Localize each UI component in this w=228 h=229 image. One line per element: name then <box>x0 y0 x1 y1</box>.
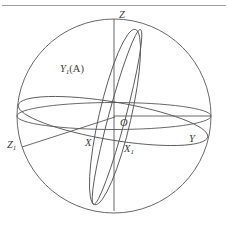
label-z1-subscript: 1 <box>13 144 17 152</box>
label-x1: X1 <box>124 144 134 155</box>
celestial-sphere-figure: Z Y1(A) Z1 X O X1 Y <box>0 0 228 229</box>
label-y1-a-subscript: 1 <box>66 68 70 76</box>
sphere-diagram-canvas <box>0 0 228 229</box>
inclined-plane-ellipse <box>15 86 211 155</box>
label-z1-base: Z <box>7 139 13 150</box>
label-y1-a: Y1(A) <box>60 64 84 75</box>
z1-axis-line <box>22 117 115 147</box>
label-x1-subscript: 1 <box>130 148 134 156</box>
label-y1-a-paren: (A) <box>69 63 84 74</box>
orbit-great-circle-b <box>85 27 148 206</box>
label-origin: O <box>120 118 128 129</box>
label-y: Y <box>189 134 195 145</box>
label-z1: Z1 <box>7 140 16 151</box>
label-x: X <box>85 138 91 149</box>
label-z: Z <box>119 10 125 21</box>
label-y1-a-base: Y <box>60 63 66 74</box>
